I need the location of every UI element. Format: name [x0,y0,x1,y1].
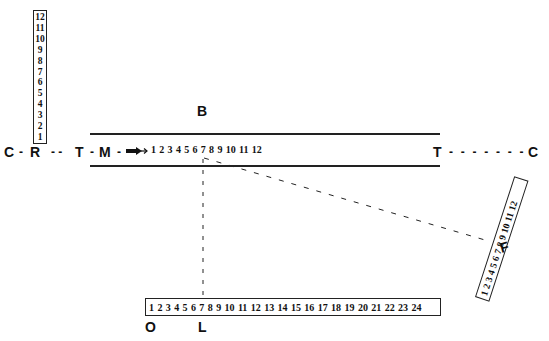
scale-ol-tick: 22 [385,302,395,313]
scale-ol-tick: 13 [264,302,274,313]
dashed-diagonal-connector [204,158,485,240]
scale-ol-tick: 4 [174,302,179,313]
scale-ol-tick: 3 [166,302,171,313]
bottom-scale-ol: 1 2 3 4 5 6 7 8 9 10 11 12 13 14 15 16 1… [145,298,441,316]
scale-ol-tick: 7 [199,302,204,313]
scale-f-tick: 5 [488,262,499,270]
scale-ol-tick: 12 [251,302,261,313]
scale-ol-tick: 15 [291,302,301,313]
scale-ol-tick: 21 [371,302,381,313]
connector-lines [0,0,549,341]
scale-f-tick: 11 [503,211,515,223]
scale-ol-tick: 23 [398,302,408,313]
scale-ol-tick: 24 [411,302,421,313]
scale-ol-tick: 20 [358,302,368,313]
scale-ol-tick: 10 [225,302,235,313]
scale-ol-tick: 11 [238,302,247,313]
label-l: L [198,320,207,334]
scale-ol-tick: 19 [344,302,354,313]
scale-f-tick: 10 [499,222,511,234]
scale-ol-tick: 16 [304,302,314,313]
scale-ol-tick: 18 [331,302,341,313]
scale-f-tick: 2 [481,282,492,290]
scale-f-tick: 4 [485,268,496,276]
scale-ol-tick: 1 [149,302,154,313]
scale-f-tick: 1 [479,289,490,297]
label-o: O [145,320,156,334]
scale-f-tick: 3 [483,275,494,283]
scale-ol-tick: 14 [278,302,288,313]
scale-ol-tick: 5 [183,302,188,313]
scale-f-tick: 6 [490,255,501,263]
scale-ol-tick: 9 [216,302,221,313]
scale-f-tick: 12 [506,200,518,212]
scale-ol-tick: 6 [191,302,196,313]
scale-ol-tick: 17 [318,302,328,313]
scale-ol-tick: 2 [157,302,162,313]
scale-ol-tick: 8 [208,302,213,313]
